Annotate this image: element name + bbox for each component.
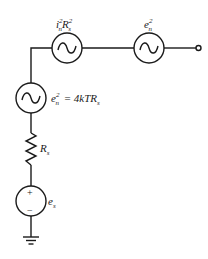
label-r: R [40, 142, 47, 154]
plus-sign: + [27, 188, 33, 198]
resistor-icon [26, 133, 36, 165]
voltage-noise-source-icon [134, 33, 164, 63]
label-sub: s [47, 149, 50, 157]
thermal-noise-label: e2n = 4kTRs [51, 93, 100, 104]
label-sub: s [53, 202, 56, 210]
label-sub: n [148, 25, 152, 33]
current-noise-source-icon [52, 33, 82, 63]
current-noise-label: i2nR2s [56, 19, 71, 30]
output-terminal-icon [196, 46, 201, 51]
label-sub: n [55, 99, 59, 107]
voltage-noise-label: e2n [144, 19, 152, 30]
thermal-noise-source-icon [16, 83, 46, 113]
label-sub2: s [68, 25, 71, 33]
circuit-diagram [0, 0, 208, 259]
equation-sub: s [97, 99, 100, 107]
wire-top-left [31, 48, 52, 83]
minus-sign: − [27, 206, 33, 216]
resistor-label: Rs [40, 143, 49, 154]
thermal-noise-equation: = 4kTR [64, 92, 97, 104]
signal-source-label: es [48, 196, 56, 207]
ground-icon [23, 237, 39, 244]
